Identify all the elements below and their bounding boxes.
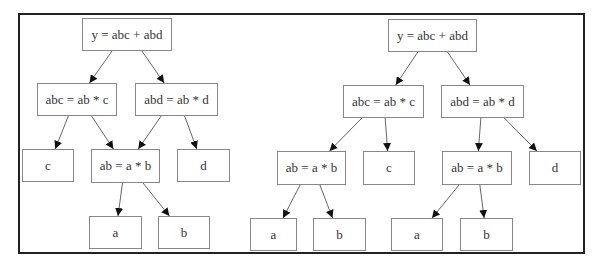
node-y: y = abc + abd (388, 19, 477, 52)
edge-abc-c (55, 116, 68, 149)
node-a1: a (250, 218, 297, 251)
node-b: b (158, 216, 210, 249)
node-y: y = abc + abd (82, 18, 172, 51)
edge-y-abc (90, 51, 113, 83)
node-d: d (177, 149, 230, 182)
node-ab1: ab = a * b (277, 151, 346, 185)
node-b2: b (460, 218, 513, 251)
node-a2: a (391, 218, 443, 251)
edge-y-abc (396, 52, 418, 85)
node-abd: abd = ab * d (135, 83, 218, 116)
edge-abc-ab (92, 116, 114, 149)
edge-ab-b (143, 183, 169, 216)
edge-ab2-b2 (480, 185, 484, 218)
node-abc: abc = ab * c (343, 85, 424, 118)
node-c: c (363, 151, 415, 185)
node-ab2: ab = a * b (442, 151, 512, 185)
node-b1: b (313, 218, 366, 251)
edge-abd-ab (138, 116, 161, 149)
node-ab: ab = a * b (91, 149, 160, 183)
edge-abc-ab1 (330, 118, 362, 151)
edge-abd-ab2 (478, 118, 480, 151)
edge-y-abd (448, 52, 471, 85)
edge-ab2-a2 (432, 185, 459, 218)
edge-ab1-b1 (320, 185, 333, 218)
edge-ab1-a1 (283, 185, 300, 218)
node-a: a (89, 216, 142, 249)
edge-abc-c (385, 118, 387, 151)
node-d: d (529, 151, 581, 185)
edge-y-abd (142, 51, 164, 83)
edge-abd-d (185, 116, 197, 149)
node-abc: abc = ab * c (37, 83, 117, 116)
node-abd: abd = ab * d (441, 85, 524, 118)
node-c: c (22, 149, 74, 182)
edge-abd-d (504, 118, 537, 151)
edge-ab-a (118, 183, 123, 216)
